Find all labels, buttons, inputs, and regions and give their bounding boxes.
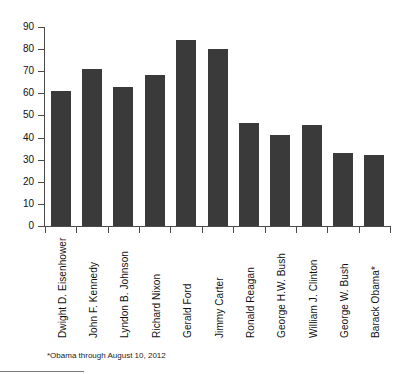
x-axis-tick — [108, 227, 109, 233]
x-axis-category-label: John F. Kennedy — [88, 262, 99, 338]
x-axis-category-label: Dwight D. Eisenhower — [57, 238, 68, 338]
y-axis-tick — [38, 71, 45, 72]
bar — [145, 75, 165, 226]
y-axis-tick — [38, 138, 45, 139]
x-axis-tick — [296, 227, 297, 233]
bar — [82, 69, 102, 226]
x-axis-tick — [359, 227, 360, 233]
y-axis-tick — [38, 93, 45, 94]
x-axis-tick — [139, 227, 140, 233]
x-axis-tick — [265, 227, 266, 233]
bar — [270, 135, 290, 226]
y-axis-tick-label: 90 — [0, 22, 34, 32]
y-axis-tick — [38, 49, 45, 50]
y-axis-tick — [38, 204, 45, 205]
x-axis-category-label: George W. Bush — [339, 263, 350, 338]
y-axis-tick-label: 70 — [0, 66, 34, 76]
x-axis-labels: Dwight D. EisenhowerJohn F. KennedyLyndo… — [45, 234, 390, 344]
bottom-rule — [0, 371, 84, 372]
y-axis-tick — [38, 182, 45, 183]
bar — [113, 87, 133, 226]
x-axis-category-label: Gerald Ford — [182, 284, 193, 338]
y-axis-tick-label: 30 — [0, 155, 34, 165]
x-axis-tick — [390, 227, 391, 233]
bar — [176, 40, 196, 226]
x-axis-category-label: George H.W. Bush — [276, 253, 287, 338]
bar — [208, 49, 228, 226]
x-axis-category-label: William J. Clinton — [308, 260, 319, 338]
y-axis-tick-label: 80 — [0, 44, 34, 54]
x-axis-tick — [45, 227, 46, 233]
bar — [51, 91, 71, 226]
x-axis-category-label: Richard Nixon — [151, 274, 162, 338]
bar — [333, 153, 353, 226]
y-axis-tick — [38, 160, 45, 161]
x-axis-tick — [233, 227, 234, 233]
y-axis-tick-label: 40 — [0, 133, 34, 143]
x-axis-line — [44, 226, 391, 227]
y-axis-tick — [38, 27, 45, 28]
x-axis-category-label: Barack Obama* — [370, 266, 381, 338]
x-axis-tick — [327, 227, 328, 233]
x-axis-tick — [170, 227, 171, 233]
x-axis-category-label: Jimmy Carter — [214, 277, 225, 338]
x-axis-tick — [76, 227, 77, 233]
chart-footnote: *Obama through August 10, 2012 — [47, 351, 166, 361]
x-axis-category-label: Ronald Reagan — [245, 267, 256, 338]
y-axis-tick — [38, 115, 45, 116]
y-axis-tick-label: 50 — [0, 110, 34, 120]
bar-chart: 0102030405060708090 Dwight D. Eisenhower… — [0, 0, 411, 374]
bar — [239, 123, 259, 226]
bar — [302, 125, 322, 226]
x-axis-category-label: Lyndon B. Johnson — [119, 251, 130, 338]
y-axis-tick-label: 20 — [0, 177, 34, 187]
bars-layer — [45, 27, 390, 226]
x-axis-tick — [202, 227, 203, 233]
y-axis-tick-label: 60 — [0, 88, 34, 98]
y-axis-tick — [38, 226, 45, 227]
y-axis-tick-label: 10 — [0, 199, 34, 209]
bar — [364, 155, 384, 226]
y-axis-tick-label: 0 — [0, 221, 34, 231]
